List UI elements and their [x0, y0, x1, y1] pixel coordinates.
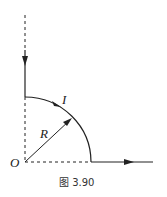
current-label: I — [61, 92, 67, 107]
figure-diagram: I R O 图 3.90 — [0, 0, 167, 197]
figure-caption: 图 3.90 — [59, 177, 94, 188]
radius-label: R — [39, 126, 48, 141]
current-arrow-down-icon — [22, 56, 28, 66]
current-arrow-right-icon — [124, 159, 134, 165]
origin-label: O — [10, 155, 20, 170]
